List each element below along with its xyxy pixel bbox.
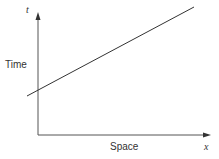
x-axis: [38, 133, 211, 138]
worldline: [27, 7, 194, 96]
x-axis-symbol: x: [204, 141, 208, 152]
x-axis-label: Space: [110, 141, 138, 152]
y-axis-arrow-icon: [36, 12, 41, 20]
y-axis-label: Time: [5, 59, 27, 70]
space-time-diagram: [0, 0, 219, 159]
y-axis: [36, 12, 41, 135]
x-axis-arrow-icon: [203, 133, 211, 138]
y-axis-symbol: t: [26, 4, 29, 15]
